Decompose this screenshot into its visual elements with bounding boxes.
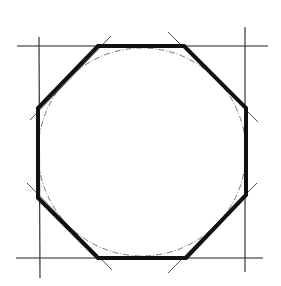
- octagon-diagram: [0, 0, 281, 286]
- diagram-drawing: [0, 0, 281, 286]
- construction-lines: [16, 27, 268, 278]
- top-left-diagonal-line: [30, 36, 111, 120]
- diagonal-guides: [27, 32, 258, 273]
